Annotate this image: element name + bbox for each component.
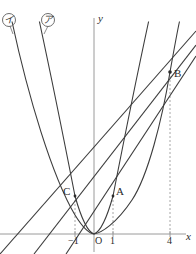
point-marker-c [74, 195, 77, 198]
chord-line-cb [0, 31, 196, 254]
y-axis-label: y [98, 13, 103, 24]
leader-line-i [10, 26, 13, 34]
point-label-a: A [116, 186, 124, 197]
point-label-b: B [174, 68, 181, 79]
point-marker-a [112, 195, 115, 198]
math-figure: イ ア y x O −1 1 4 A B C [0, 0, 196, 254]
origin-label: O [95, 236, 102, 246]
point-label-c: C [63, 186, 70, 197]
parabola-wide-a [12, 22, 180, 235]
graph-canvas [0, 0, 196, 254]
point-marker-b [168, 70, 172, 74]
curve-label-a: ア [41, 13, 55, 27]
curve-label-i: イ [2, 13, 16, 27]
tangent-line-b [66, 56, 196, 254]
x-tick-label-1: 1 [110, 236, 115, 246]
x-tick-label-4: 4 [167, 236, 172, 246]
leader-line-a [44, 26, 48, 34]
secant-line-ob [34, 45, 196, 254]
x-tick-label-neg1: −1 [68, 236, 79, 246]
x-axis-label: x [186, 231, 191, 242]
